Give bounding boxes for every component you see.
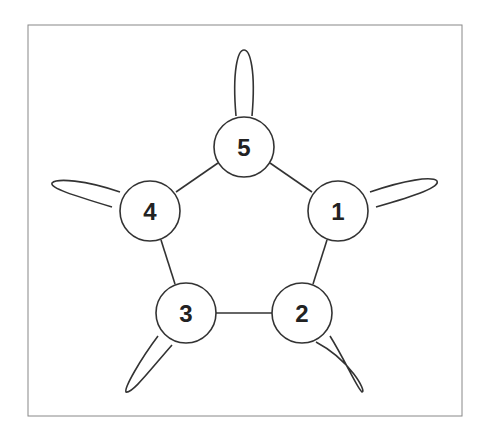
- node-2-label: 2: [295, 300, 308, 327]
- graph-diagram: 5 1 2 3 4: [0, 0, 485, 433]
- self-loops: [52, 50, 437, 392]
- node-1-label: 1: [331, 198, 344, 225]
- node-5-label: 5: [237, 134, 250, 161]
- self-loop-2: [316, 336, 363, 392]
- node-1: 1: [308, 181, 368, 241]
- self-loop-1: [370, 179, 437, 207]
- edge-5-1: [270, 163, 312, 192]
- diagram-frame: [28, 25, 462, 416]
- node-3-label: 3: [179, 300, 192, 327]
- node-5: 5: [214, 117, 274, 177]
- node-2: 2: [272, 283, 332, 343]
- edge-1-2: [313, 240, 327, 284]
- self-loop-4: [52, 180, 120, 207]
- node-3: 3: [156, 283, 216, 343]
- edge-3-4: [161, 240, 175, 284]
- self-loop-3: [126, 336, 172, 392]
- node-4: 4: [120, 181, 180, 241]
- node-4-label: 4: [143, 198, 157, 225]
- edge-4-5: [176, 163, 218, 192]
- self-loop-5: [235, 50, 254, 116]
